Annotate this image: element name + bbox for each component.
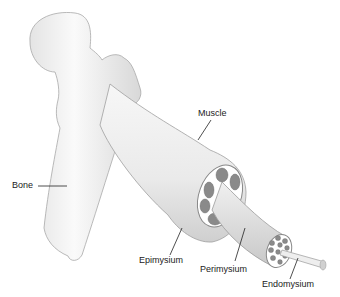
anatomy-illustration xyxy=(0,0,340,297)
fascicle-shape xyxy=(212,182,296,271)
label-perimysium: Perimysium xyxy=(200,265,247,274)
label-endomysium: Endomysium xyxy=(262,280,314,289)
label-muscle: Muscle xyxy=(198,109,227,118)
label-bone: Bone xyxy=(12,181,33,190)
label-epimysium: Epimysium xyxy=(139,256,183,265)
